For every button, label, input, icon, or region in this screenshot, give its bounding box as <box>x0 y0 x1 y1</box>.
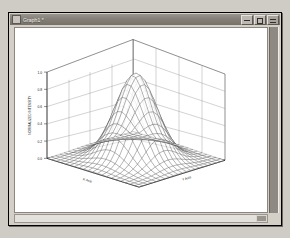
maximize-button[interactable] <box>254 15 266 25</box>
minimize-button[interactable] <box>241 15 253 25</box>
window-titlebar[interactable]: Graph1 * <box>10 14 280 25</box>
close-button[interactable] <box>267 15 279 25</box>
vertical-scrollbar-thumb[interactable] <box>270 27 278 83</box>
x-axis-title: X Axis <box>82 177 93 184</box>
z-tick-label: 0.2 <box>37 140 42 144</box>
y-axis-title: Y Axis <box>182 175 192 182</box>
z-tick-label: 0.8 <box>37 88 42 92</box>
z-tick-label: 0.4 <box>37 122 42 126</box>
z-axis-title: NORMALIZED INTENSITY <box>28 95 32 135</box>
desktop-background: Graph1 * <box>0 0 290 238</box>
graph-sheet[interactable]: 1.0 0.8 0.6 0.4 0.2 0.0 NORMALIZED INTEN… <box>14 27 268 213</box>
graph-window: Graph1 * <box>8 12 282 226</box>
z-tick-label: 1.0 <box>37 71 42 75</box>
z-tick-label: 0.0 <box>37 157 42 161</box>
system-menu-icon[interactable] <box>12 15 21 24</box>
z-axis: 1.0 0.8 0.6 0.4 0.2 0.0 NORMALIZED INTEN… <box>28 71 47 161</box>
z-tick-label: 0.6 <box>37 105 42 109</box>
horizontal-scrollbar-thumb[interactable] <box>256 215 267 222</box>
surface-plot-3d[interactable]: 1.0 0.8 0.6 0.4 0.2 0.0 NORMALIZED INTEN… <box>15 28 267 212</box>
window-client-area: 1.0 0.8 0.6 0.4 0.2 0.0 NORMALIZED INTEN… <box>10 25 280 224</box>
window-controls <box>241 15 279 25</box>
horizontal-scrollbar[interactable] <box>14 214 268 223</box>
vertical-scrollbar[interactable] <box>269 27 279 213</box>
window-title: Graph1 * <box>23 17 241 23</box>
